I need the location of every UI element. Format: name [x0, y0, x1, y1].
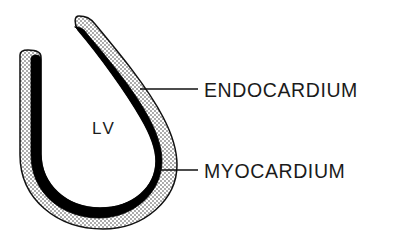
myocardium-label: MYOCARDIUM [204, 160, 345, 182]
endocardium-callout: ENDOCARDIUM [140, 79, 358, 101]
lv-cavity: LV [51, 36, 144, 204]
endocardium-label: ENDOCARDIUM [204, 79, 358, 101]
lv-anatomy-figure: LV ENDOCARDIUM MYOCARDIUM [0, 0, 397, 245]
diagram-canvas: LV ENDOCARDIUM MYOCARDIUM [0, 0, 397, 245]
myocardium-callout: MYOCARDIUM [159, 160, 345, 182]
lv-cavity-label: LV [92, 119, 116, 138]
